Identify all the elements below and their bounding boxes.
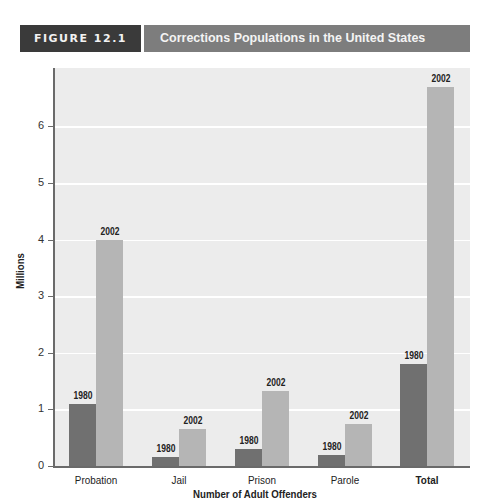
x-category-label: Jail (143, 474, 215, 486)
y-tick-label: 4 (28, 233, 44, 245)
bar-data-label: 1980 (397, 350, 431, 361)
gridline (54, 183, 470, 185)
bar-data-label: 2002 (93, 226, 127, 237)
y-axis-title: Millions (14, 245, 26, 298)
bar-data-label: 2002 (259, 377, 293, 388)
y-tick-label: 6 (28, 119, 44, 131)
bar-parole-1980 (318, 455, 345, 466)
bar-data-label: 2002 (342, 410, 376, 421)
y-tick-label: 2 (28, 346, 44, 358)
x-axis-line (53, 466, 470, 468)
y-tick-label: 3 (28, 289, 44, 301)
y-tick-mark (48, 126, 53, 127)
bar-data-label: 2002 (176, 415, 210, 426)
bar-data-label: 2002 (424, 73, 458, 84)
gridline (54, 126, 470, 128)
bar-total-1980 (400, 364, 427, 466)
x-category-label: Probation (60, 474, 132, 486)
bar-data-label: 1980 (232, 435, 266, 446)
bar-jail-1980 (152, 457, 179, 466)
y-tick-label: 5 (28, 176, 44, 188)
y-tick-mark (48, 353, 53, 354)
x-category-label: Parole (309, 474, 381, 486)
bar-parole-2002 (345, 424, 372, 466)
bar-total-2002 (427, 87, 454, 466)
chart-title: Corrections Populations in the United St… (144, 25, 470, 52)
bar-data-label: 1980 (315, 441, 349, 452)
y-tick-label: 0 (28, 459, 44, 471)
bar-data-label: 1980 (66, 390, 100, 401)
x-category-label: Total (391, 474, 463, 486)
figure-number-label: FIGURE 12.1 (20, 25, 141, 52)
bar-jail-2002 (179, 429, 206, 466)
bar-data-label: 1980 (149, 443, 183, 454)
bar-probation-2002 (96, 240, 123, 466)
y-tick-label: 1 (28, 402, 44, 414)
bar-prison-2002 (262, 391, 289, 466)
y-tick-mark (48, 240, 53, 241)
x-axis-title: Number of Adult Offenders (154, 488, 356, 500)
bar-probation-1980 (69, 404, 96, 466)
y-tick-mark (48, 296, 53, 297)
bar-prison-1980 (235, 449, 262, 466)
y-axis-line (53, 68, 55, 467)
y-tick-mark (48, 466, 53, 467)
y-tick-mark (48, 409, 53, 410)
x-category-label: Prison (226, 474, 298, 486)
y-tick-mark (48, 183, 53, 184)
